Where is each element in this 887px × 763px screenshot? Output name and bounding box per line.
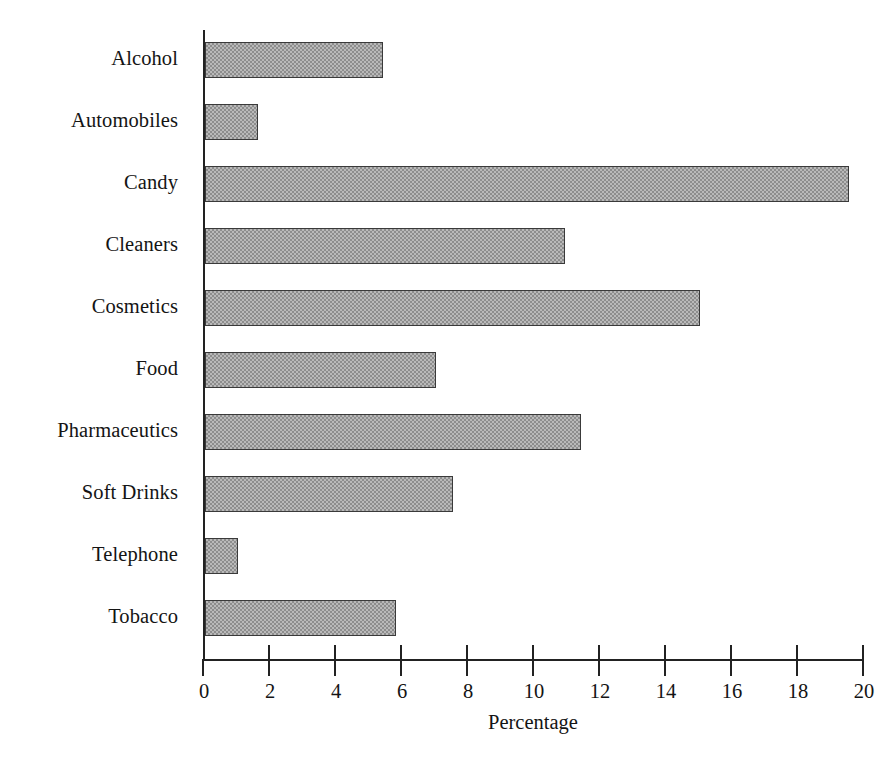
bar-chart: Alcohol Automobiles Candy Cleaners Cosme… (0, 0, 887, 763)
category-axis-labels: Alcohol Automobiles Candy Cleaners Cosme… (0, 0, 190, 660)
bar-candy (205, 166, 849, 202)
value-axis-tick-upper (268, 645, 270, 660)
value-axis-tick (268, 659, 270, 676)
value-axis-tick-label: 0 (174, 681, 234, 702)
value-axis-tick-label: 10 (504, 681, 564, 702)
category-label-tobacco: Tobacco (0, 606, 178, 627)
bar-soft-drinks (205, 476, 453, 512)
value-axis-tick-upper (862, 645, 864, 660)
value-axis-tick (532, 659, 534, 676)
value-axis-tick-upper (532, 645, 534, 660)
value-axis-tick (466, 659, 468, 676)
category-label-automobiles: Automobiles (0, 110, 178, 131)
category-label-candy: Candy (0, 172, 178, 193)
value-axis-tick-upper (730, 645, 732, 660)
value-axis-tick-label: 12 (570, 681, 630, 702)
value-axis-tick (862, 659, 864, 676)
bar-telephone (205, 538, 238, 574)
category-label-pharmaceutics: Pharmaceutics (0, 420, 178, 441)
x-axis-title: Percentage (203, 712, 863, 733)
value-axis-tick-label: 4 (306, 681, 366, 702)
value-axis-tick-label: 14 (636, 681, 696, 702)
value-axis-tick-label: 18 (768, 681, 828, 702)
category-label-cosmetics: Cosmetics (0, 296, 178, 317)
bar-pharmaceutics (205, 414, 581, 450)
category-label-telephone: Telephone (0, 544, 178, 565)
value-axis-tick (796, 659, 798, 676)
category-label-soft-drinks: Soft Drinks (0, 482, 178, 503)
bar-tobacco (205, 600, 396, 636)
bar-automobiles (205, 104, 258, 140)
value-axis-tick (598, 659, 600, 676)
value-axis-tick (664, 659, 666, 676)
value-axis-tick-upper (334, 645, 336, 660)
value-axis-tick (400, 659, 402, 676)
bar-food (205, 352, 436, 388)
value-axis-tick-upper (664, 645, 666, 660)
bar-alcohol (205, 42, 383, 78)
bar-cleaners (205, 228, 565, 264)
value-axis-tick-upper (598, 645, 600, 660)
value-axis-tick (202, 659, 204, 676)
plot-area (203, 30, 863, 660)
bar-cosmetics (205, 290, 700, 326)
value-axis-tick-label: 16 (702, 681, 762, 702)
category-label-alcohol: Alcohol (0, 48, 178, 69)
value-axis-tick-upper (400, 645, 402, 660)
value-axis-tick-label: 20 (834, 681, 887, 702)
value-axis-tick-label: 6 (372, 681, 432, 702)
value-axis-tick (334, 659, 336, 676)
value-axis-tick-label: 2 (240, 681, 300, 702)
category-label-cleaners: Cleaners (0, 234, 178, 255)
value-axis-tick-upper (466, 645, 468, 660)
category-label-food: Food (0, 358, 178, 379)
value-axis-tick (730, 659, 732, 676)
value-axis-tick-label: 8 (438, 681, 498, 702)
value-axis-tick-upper (796, 645, 798, 660)
